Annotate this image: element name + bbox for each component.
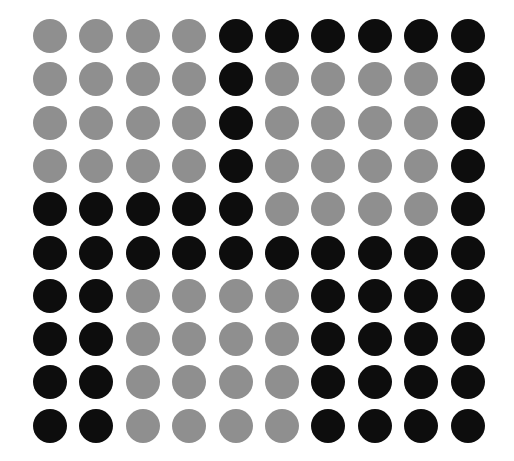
gray-dot xyxy=(79,149,113,183)
gray-dot xyxy=(219,409,253,443)
gray-dot xyxy=(404,62,438,96)
black-dot xyxy=(451,322,485,356)
black-dot xyxy=(79,236,113,270)
gray-dot xyxy=(311,62,345,96)
gray-dot xyxy=(126,62,160,96)
gray-dot xyxy=(126,149,160,183)
gray-dot xyxy=(126,106,160,140)
black-dot xyxy=(219,149,253,183)
gray-dot xyxy=(172,279,206,313)
gray-dot xyxy=(33,106,67,140)
gray-dot xyxy=(404,192,438,226)
black-dot xyxy=(451,365,485,399)
black-dot xyxy=(33,236,67,270)
gray-dot xyxy=(358,149,392,183)
black-dot xyxy=(404,322,438,356)
black-dot xyxy=(79,192,113,226)
black-dot xyxy=(404,279,438,313)
black-dot xyxy=(265,19,299,53)
gray-dot xyxy=(33,149,67,183)
gray-dot xyxy=(126,365,160,399)
black-dot xyxy=(451,409,485,443)
gray-dot xyxy=(358,106,392,140)
gray-dot xyxy=(358,62,392,96)
black-dot xyxy=(172,236,206,270)
gray-dot xyxy=(79,106,113,140)
black-dot xyxy=(451,19,485,53)
gray-dot xyxy=(172,19,206,53)
gray-dot xyxy=(33,19,67,53)
gray-dot xyxy=(265,106,299,140)
gray-dot xyxy=(404,149,438,183)
gray-dot xyxy=(126,279,160,313)
black-dot xyxy=(358,322,392,356)
gray-dot xyxy=(265,192,299,226)
black-dot xyxy=(404,236,438,270)
gray-dot xyxy=(126,322,160,356)
black-dot xyxy=(219,62,253,96)
black-dot xyxy=(451,192,485,226)
gray-dot xyxy=(404,106,438,140)
black-dot xyxy=(404,409,438,443)
gray-dot xyxy=(172,322,206,356)
black-dot xyxy=(219,192,253,226)
black-dot xyxy=(265,236,299,270)
black-dot xyxy=(79,322,113,356)
gray-dot xyxy=(265,149,299,183)
black-dot xyxy=(358,365,392,399)
black-dot xyxy=(451,149,485,183)
black-dot xyxy=(358,236,392,270)
black-dot xyxy=(311,236,345,270)
black-dot xyxy=(126,236,160,270)
gray-dot xyxy=(265,322,299,356)
black-dot xyxy=(33,322,67,356)
gray-dot xyxy=(311,192,345,226)
black-dot xyxy=(451,106,485,140)
black-dot xyxy=(311,365,345,399)
black-dot xyxy=(33,279,67,313)
gray-dot xyxy=(172,62,206,96)
gray-dot xyxy=(126,19,160,53)
gray-dot xyxy=(172,409,206,443)
black-dot xyxy=(33,409,67,443)
dot-grid xyxy=(0,0,514,461)
black-dot xyxy=(33,192,67,226)
gray-dot xyxy=(311,149,345,183)
gray-dot xyxy=(33,62,67,96)
gray-dot xyxy=(265,279,299,313)
black-dot xyxy=(219,19,253,53)
black-dot xyxy=(451,279,485,313)
black-dot xyxy=(79,279,113,313)
black-dot xyxy=(79,409,113,443)
black-dot xyxy=(451,62,485,96)
black-dot xyxy=(172,192,206,226)
gray-dot xyxy=(79,19,113,53)
gray-dot xyxy=(265,62,299,96)
gray-dot xyxy=(172,365,206,399)
gray-dot xyxy=(219,279,253,313)
black-dot xyxy=(404,19,438,53)
gray-dot xyxy=(265,409,299,443)
black-dot xyxy=(33,365,67,399)
black-dot xyxy=(451,236,485,270)
gray-dot xyxy=(311,106,345,140)
black-dot xyxy=(311,279,345,313)
black-dot xyxy=(404,365,438,399)
gray-dot xyxy=(358,192,392,226)
black-dot xyxy=(311,322,345,356)
gray-dot xyxy=(219,365,253,399)
gray-dot xyxy=(79,62,113,96)
black-dot xyxy=(126,192,160,226)
gray-dot xyxy=(172,106,206,140)
black-dot xyxy=(358,279,392,313)
black-dot xyxy=(311,19,345,53)
gray-dot xyxy=(172,149,206,183)
black-dot xyxy=(79,365,113,399)
gray-dot xyxy=(126,409,160,443)
black-dot xyxy=(219,236,253,270)
black-dot xyxy=(358,409,392,443)
gray-dot xyxy=(219,322,253,356)
black-dot xyxy=(311,409,345,443)
gray-dot xyxy=(265,365,299,399)
black-dot xyxy=(219,106,253,140)
